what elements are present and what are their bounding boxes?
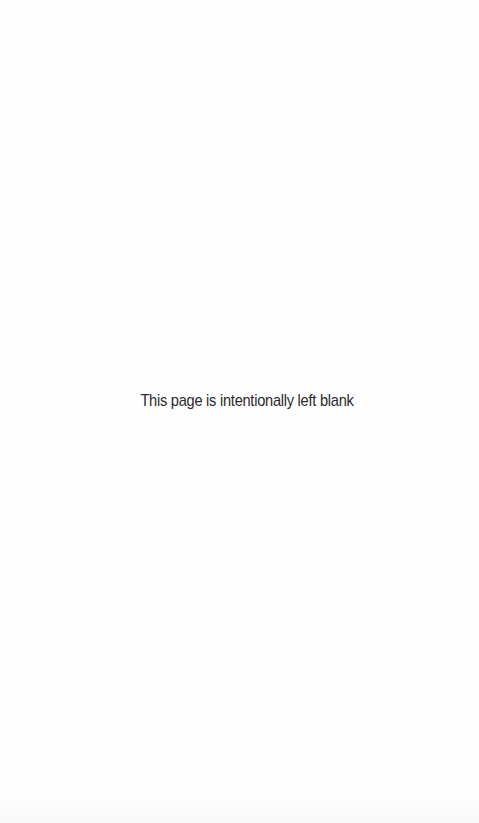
- blank-page: This page is intentionally left blank: [0, 0, 479, 823]
- blank-page-notice: This page is intentionally left blank: [35, 390, 460, 412]
